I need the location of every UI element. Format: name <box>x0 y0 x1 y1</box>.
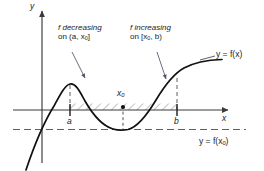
annotation-left-interval-post: ] <box>88 32 90 41</box>
annotation-right-interval-pre: on [x <box>130 32 147 41</box>
annotation-f-increasing: f increasing on [x0, b) <box>130 24 171 42</box>
annotation-right-interval-post: , b) <box>150 32 162 41</box>
point-marker-x0 <box>121 105 125 109</box>
annotation-f-decreasing-line1: f decreasing <box>58 23 102 32</box>
function-curve <box>26 60 222 171</box>
annotation-left-interval-pre: on (a, x <box>58 32 85 41</box>
curve-label-fx0: y = f(x0) <box>199 137 228 147</box>
callout-arrow-left <box>72 52 85 78</box>
curve-label-fx0-post: ) <box>226 136 229 146</box>
tick-label-b: b <box>174 117 179 127</box>
tick-label-x0-sub: 0 <box>121 92 124 98</box>
x-axis-label: x <box>222 114 226 124</box>
curve-label-function: y = f(x) <box>216 50 242 60</box>
annotation-f-decreasing-line2: on (a, x0] <box>58 33 102 42</box>
figure-container: y x a b x0 f decreasing on (a, x0] f inc… <box>0 0 264 171</box>
tick-label-x0: x0 <box>117 89 124 99</box>
annotation-f-increasing-line2: on [x0, b) <box>130 33 171 42</box>
curve-label-fx0-pre: y = f(x <box>199 136 222 146</box>
tick-label-a: a <box>67 117 72 127</box>
annotation-f-decreasing: f decreasing on (a, x0] <box>58 24 102 42</box>
y-axis-label: y <box>30 2 34 12</box>
annotation-f-increasing-line1: f increasing <box>130 23 171 32</box>
callout-arrow-right <box>157 52 166 79</box>
